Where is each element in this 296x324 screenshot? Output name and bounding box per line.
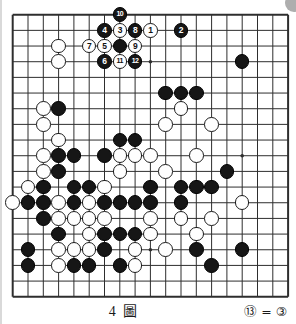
stone-white [36, 164, 51, 179]
stone-black [189, 242, 204, 257]
stone-white [128, 242, 143, 257]
stone-white [113, 164, 128, 179]
stone-black-move-6: 6 [97, 54, 112, 69]
figure-caption: 4 圖 [0, 300, 248, 320]
stone-white [113, 148, 128, 163]
stone-black [128, 227, 143, 242]
stone-black [97, 227, 112, 242]
stone-black [67, 180, 82, 195]
stone-black [67, 258, 82, 273]
stone-white [21, 180, 36, 195]
stone-black [235, 242, 250, 257]
stone-black [113, 133, 128, 148]
stone-white [82, 195, 97, 210]
stone-white [204, 211, 219, 226]
stone-black [113, 39, 128, 54]
stone-black [235, 54, 250, 69]
stone-white [82, 242, 97, 257]
stone-black [82, 180, 97, 195]
stone-black-move-12: 12 [128, 54, 143, 69]
stone-white-move-5: 5 [97, 39, 112, 54]
stone-white-move-7: 7 [82, 39, 97, 54]
stone-black [36, 211, 51, 226]
stone-white [51, 39, 66, 54]
stone-layer: 104381275961112 [0, 0, 296, 324]
stone-white [36, 117, 51, 132]
stone-black [128, 195, 143, 210]
stone-black-move-10: 10 [113, 7, 128, 22]
stone-white-move-11: 11 [113, 54, 128, 69]
stone-white [143, 211, 158, 226]
stone-white [204, 117, 219, 132]
stone-white [97, 211, 112, 226]
move-equivalence-note: ⑬ = ③ [244, 301, 287, 320]
stone-white [51, 211, 66, 226]
stone-black [158, 86, 173, 101]
stone-white [51, 54, 66, 69]
stone-black [174, 195, 189, 210]
stone-white [36, 148, 51, 163]
stone-white [143, 227, 158, 242]
stone-black [204, 258, 219, 273]
stone-black [113, 195, 128, 210]
page: 104381275961112 4 圖 ⑬ = ③ [0, 0, 296, 324]
stone-white [5, 195, 20, 210]
stone-black [97, 148, 112, 163]
stone-white [51, 258, 66, 273]
stone-white [82, 211, 97, 226]
stone-white [97, 180, 112, 195]
stone-black [174, 86, 189, 101]
stone-black [143, 180, 158, 195]
stone-black [21, 195, 36, 210]
stone-black [128, 133, 143, 148]
stone-white [67, 242, 82, 257]
stone-black [67, 195, 82, 210]
stone-white [128, 258, 143, 273]
stone-black [204, 180, 219, 195]
stone-white [143, 148, 158, 163]
stone-white [158, 117, 173, 132]
stone-black [51, 148, 66, 163]
stone-white [158, 242, 173, 257]
stone-black [67, 148, 82, 163]
stone-black [189, 86, 204, 101]
stone-black-move-8: 8 [128, 23, 143, 38]
stone-black [143, 195, 158, 210]
stone-black [97, 195, 112, 210]
stone-black [51, 101, 66, 116]
stone-white [51, 195, 66, 210]
stone-white [67, 211, 82, 226]
stone-white [36, 101, 51, 116]
stone-white-move-3: 3 [113, 23, 128, 38]
stone-white [51, 242, 66, 257]
stone-black [113, 227, 128, 242]
stone-white [51, 133, 66, 148]
stone-white-move-9: 9 [128, 39, 143, 54]
stone-black [51, 164, 66, 179]
stone-black [21, 258, 36, 273]
stone-black [36, 180, 51, 195]
stone-white-move-1: 1 [143, 23, 158, 38]
stone-black [36, 195, 51, 210]
stone-black [51, 227, 66, 242]
stone-black [174, 180, 189, 195]
stone-black [189, 180, 204, 195]
stone-black [113, 258, 128, 273]
stone-black [82, 258, 97, 273]
stone-white [174, 101, 189, 116]
stone-white [158, 164, 173, 179]
stone-black-move-2: 2 [174, 23, 189, 38]
stone-white [128, 148, 143, 163]
stone-black [21, 242, 36, 257]
stone-black [97, 242, 112, 257]
stone-white [174, 211, 189, 226]
stone-white [82, 227, 97, 242]
stone-white [189, 227, 204, 242]
stone-black-move-4: 4 [97, 23, 112, 38]
stone-white [189, 148, 204, 163]
stone-black [220, 164, 235, 179]
stone-white [235, 195, 250, 210]
